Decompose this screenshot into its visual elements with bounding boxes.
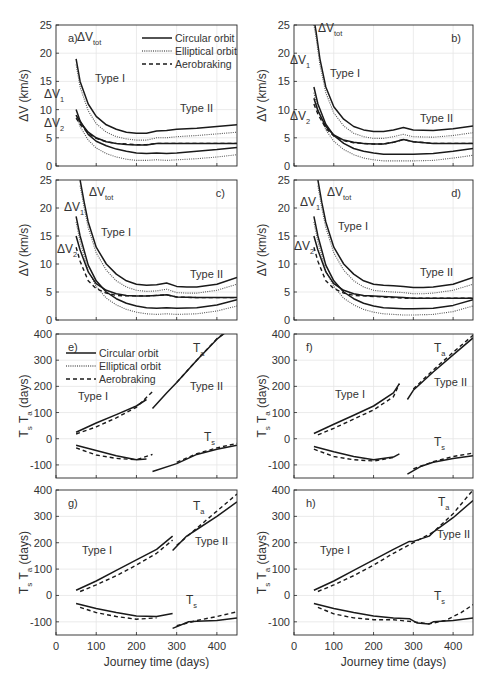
series-group [76, 494, 237, 628]
y-tick-label: -100 [30, 459, 52, 471]
annotation-type-1: Type I [335, 388, 365, 400]
svg-text:Ts Ta (days): Ts Ta (days) [255, 375, 272, 438]
legend-entry: Circular orbit [99, 347, 159, 359]
annotation-type-2: Type II [420, 112, 453, 124]
y-tick-label: 20 [278, 47, 290, 59]
panel-label: d) [451, 187, 461, 199]
annotation-dv-2: ΔV2 [57, 242, 77, 259]
y-tick-label: 300 [272, 510, 290, 522]
annotation-type-2: Type II [420, 266, 453, 278]
series-line [153, 445, 238, 471]
annotation-dv-1: ΔV1 [290, 53, 310, 70]
y-tick-label: 400 [34, 484, 52, 496]
series-line [76, 603, 173, 616]
panel-label: g) [68, 497, 78, 509]
annotation-dv-2: ΔV2 [290, 109, 310, 126]
y-tick-label: 400 [272, 484, 290, 496]
annotation-dv-1: ΔV1 [64, 200, 84, 217]
svg-text:ΔV (km/s): ΔV (km/s) [17, 224, 31, 277]
y-axis-label: ΔV (km/s) [255, 69, 269, 122]
series-line [153, 324, 238, 409]
y-tick-label: 5 [46, 132, 52, 144]
y-tick-label: 10 [40, 258, 52, 270]
y-tick-label: 0 [284, 433, 290, 445]
annotation-dv-2: ΔV2 [294, 239, 314, 256]
y-tick-label: 300 [34, 354, 52, 366]
annotation-type-1: Type I [330, 67, 360, 79]
y-tick-label: 20 [40, 47, 52, 59]
panel-g: -10001002003004000100200300400Journey ti… [17, 484, 237, 669]
annotation-dv-tot: ΔVtot [318, 21, 343, 38]
y-tick-label: 200 [34, 537, 52, 549]
annotation-t-s: Ts [204, 430, 215, 447]
series-line [314, 447, 400, 460]
panel-label: c) [216, 187, 225, 199]
annotation-dv-2: ΔV2 [44, 116, 64, 133]
legend-entry: Aerobraking [99, 373, 156, 385]
annotation-type-1: Type I [101, 226, 131, 238]
y-tick-label: 5 [284, 132, 290, 144]
y-axis-label: ΔV (km/s) [17, 69, 31, 122]
annotation-type-1: Type I [320, 544, 350, 556]
y-tick-label: 200 [272, 380, 290, 392]
x-tick-label: 300 [404, 640, 422, 652]
y-tick-label: 200 [272, 537, 290, 549]
annotation-type-2: Type II [190, 380, 223, 392]
series-line [314, 603, 473, 624]
axes-frame [294, 25, 473, 166]
y-tick-label: 15 [40, 75, 52, 87]
annotation-type-1: Type I [95, 72, 125, 84]
svg-text:ΔV (km/s): ΔV (km/s) [255, 224, 269, 277]
legend: Circular orbitElliptical orbitAerobrakin… [142, 32, 237, 70]
y-axis-label: Ts Ta (days) [17, 375, 34, 438]
figure-canvas: 0510152025ΔV (km/s)a)ΔVtotΔV1ΔV2Type ITy… [0, 0, 490, 675]
y-tick-label: 5 [46, 286, 52, 298]
series-line [76, 400, 146, 433]
annotation-type-2: Type II [180, 102, 213, 114]
x-tick-label: 200 [127, 640, 145, 652]
annotation-t-s: Ts [434, 435, 445, 452]
series-line [177, 324, 237, 383]
y-tick-label: 400 [272, 328, 290, 340]
x-tick-label: 100 [325, 640, 343, 652]
series-group [314, 335, 473, 474]
y-tick-label: 10 [40, 104, 52, 116]
y-tick-label: 0 [46, 433, 52, 445]
y-tick-label: 400 [34, 328, 52, 340]
y-tick-label: 100 [34, 563, 52, 575]
panel-a: 0510152025ΔV (km/s)a)ΔVtotΔV1ΔV2Type ITy… [17, 19, 237, 172]
legend-entry: Circular orbit [175, 32, 235, 44]
x-tick-label: 400 [208, 640, 226, 652]
panel-label: h) [306, 497, 316, 509]
panel-d: 0510152025ΔV (km/s)d)ΔVtotΔV1ΔV2Type ITy… [255, 174, 473, 326]
series-group [314, 19, 473, 161]
panel-c: 0510152025ΔV (km/s)c)ΔVtotΔV1ΔV2Type ITy… [17, 174, 237, 326]
y-axis-label: ΔV (km/s) [255, 224, 269, 277]
y-tick-label: 0 [46, 160, 52, 172]
legend-entry: Aerobraking [175, 58, 232, 70]
series-line [314, 93, 473, 161]
y-tick-label: 0 [46, 314, 52, 326]
y-tick-label: 0 [284, 314, 290, 326]
series-group [76, 180, 237, 314]
panel-label: b) [451, 32, 461, 44]
annotation-type-2: Type II [190, 268, 223, 280]
y-tick-label: 100 [272, 407, 290, 419]
y-tick-label: 15 [40, 230, 52, 242]
annotation-t-s: Ts [434, 589, 445, 606]
y-tick-label: 10 [278, 258, 290, 270]
y-tick-label: 10 [278, 104, 290, 116]
y-tick-label: -100 [268, 459, 290, 471]
annotation-type-1: Type I [78, 390, 108, 402]
y-axis-label: Ts Ta (days) [255, 375, 272, 438]
legend: Circular orbitElliptical orbitAerobrakin… [66, 347, 161, 385]
y-tick-label: 25 [40, 174, 52, 186]
x-tick-label: 0 [53, 640, 59, 652]
annotation-dv-tot: ΔVtot [89, 185, 114, 202]
svg-text:Ts Ta (days): Ts Ta (days) [255, 531, 272, 594]
x-tick-label: 0 [291, 640, 297, 652]
y-tick-label: 300 [34, 510, 52, 522]
x-axis-label: Journey time (days) [341, 655, 446, 669]
annotation-type-1: Type I [338, 220, 368, 232]
x-axis-label: Journey time (days) [104, 655, 209, 669]
